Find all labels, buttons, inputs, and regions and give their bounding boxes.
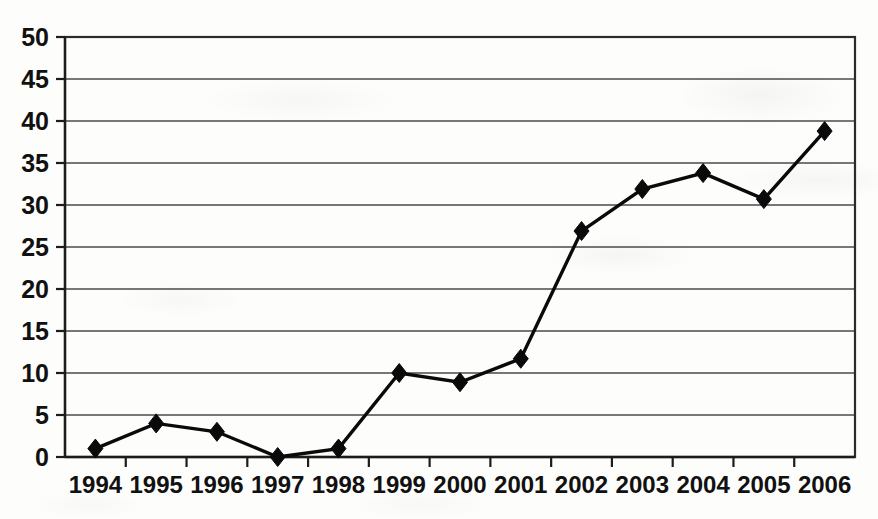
data-point-marker <box>696 164 711 183</box>
y-tick-label: 30 <box>21 191 49 219</box>
x-tick-label: 2002 <box>555 471 608 498</box>
x-tick-label: 2001 <box>494 471 547 498</box>
x-tick-label: 2000 <box>433 471 486 498</box>
x-tick-label: 2003 <box>616 471 669 498</box>
y-tick-label: 35 <box>21 149 49 177</box>
x-tick-label: 1994 <box>69 471 123 498</box>
data-point-marker <box>513 349 528 368</box>
x-tick-label: 2006 <box>798 471 851 498</box>
data-point-marker <box>453 373 468 392</box>
y-tick-label: 10 <box>21 359 49 387</box>
data-point-marker <box>270 448 285 467</box>
data-point-marker <box>209 422 224 441</box>
data-point-marker <box>574 222 589 241</box>
x-tick-label: 1997 <box>251 471 304 498</box>
x-tick-label: 1999 <box>373 471 426 498</box>
y-tick-label: 25 <box>21 233 49 261</box>
y-tick-label: 40 <box>21 107 49 135</box>
y-tick-label: 45 <box>21 65 49 93</box>
x-tick-label: 2004 <box>676 471 730 498</box>
y-tick-label: 0 <box>35 443 49 471</box>
y-tick-label: 5 <box>35 401 49 429</box>
data-point-marker <box>635 180 650 199</box>
x-tick-label: 1996 <box>190 471 243 498</box>
data-point-marker <box>149 414 164 433</box>
x-tick-label: 1995 <box>129 471 182 498</box>
line-chart: 0510152025303540455019941995199619971998… <box>0 0 878 519</box>
data-line-series-0 <box>95 131 824 457</box>
x-tick-label: 2005 <box>737 471 790 498</box>
chart-figure: 0510152025303540455019941995199619971998… <box>0 0 878 519</box>
y-tick-label: 50 <box>21 23 49 51</box>
y-tick-label: 20 <box>21 275 49 303</box>
data-point-marker <box>88 439 103 458</box>
y-tick-label: 15 <box>21 317 49 345</box>
x-tick-label: 1998 <box>312 471 365 498</box>
